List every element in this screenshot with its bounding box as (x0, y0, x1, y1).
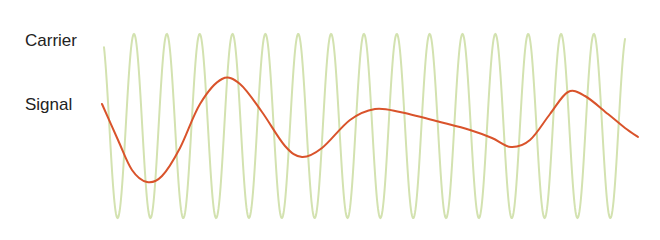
waveform-canvas (0, 0, 660, 240)
carrier-wave (104, 34, 625, 218)
